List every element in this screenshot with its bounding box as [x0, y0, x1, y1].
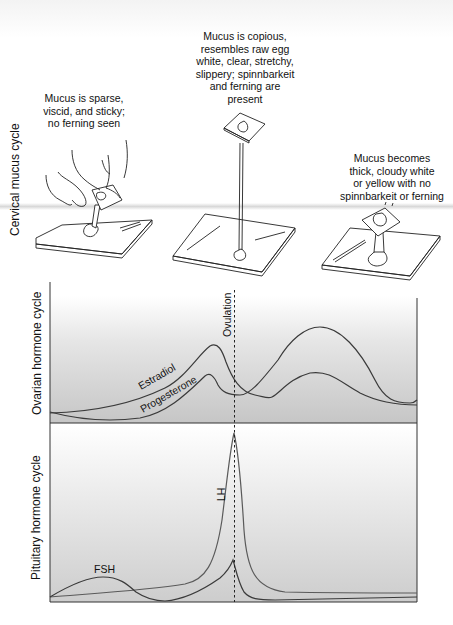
fsh-label: FSH	[94, 563, 115, 575]
ovulation-label: Ovulation	[221, 292, 233, 337]
slide-illustration-ovulatory	[173, 113, 295, 276]
pituitary-hormone-chart: FSH LH	[50, 423, 417, 602]
figure-canvas: Estradiol Progesterone FSH LH Ovulation	[0, 0, 453, 625]
lh-label: LH	[215, 488, 227, 501]
slide-illustration-early	[36, 140, 152, 258]
slide-illustration-late	[322, 202, 440, 280]
ovarian-hormone-chart: Estradiol Progesterone	[50, 282, 417, 423]
